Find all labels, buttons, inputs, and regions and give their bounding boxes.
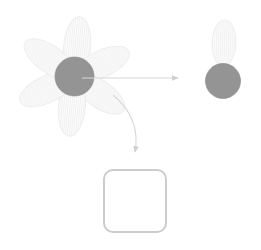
petal[interactable] [211, 20, 237, 67]
diagram-canvas [0, 0, 261, 250]
empty-drop-square[interactable] [104, 170, 166, 232]
flower-center[interactable] [55, 57, 94, 96]
source-flower[interactable] [14, 16, 134, 138]
extracted-part[interactable] [206, 20, 241, 99]
flower-center[interactable] [206, 64, 241, 99]
diagram-svg [0, 0, 261, 250]
